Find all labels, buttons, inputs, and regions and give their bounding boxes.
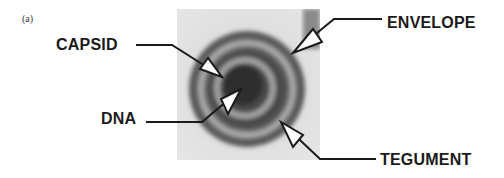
virus-micrograph — [177, 9, 320, 160]
label-capsid: CAPSID — [56, 37, 118, 53]
label-tegument: TEGUMENT — [380, 152, 471, 168]
micrograph-image — [177, 9, 320, 160]
label-dna: DNA — [101, 111, 136, 127]
panel-label: (a) — [22, 13, 33, 24]
label-envelope: ENVELOPE — [387, 15, 476, 31]
